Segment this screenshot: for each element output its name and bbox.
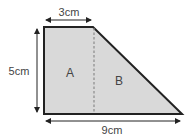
top-dimension-label: 3cm — [59, 6, 80, 18]
region-b-label: B — [115, 74, 123, 88]
trapezoid-shape — [44, 27, 182, 114]
trapezoid-diagram: 3cm 5cm 9cm A B — [0, 0, 190, 140]
bottom-dimension-label: 9cm — [102, 124, 123, 136]
left-dimension-label: 5cm — [9, 65, 30, 77]
region-a-label: A — [66, 66, 74, 80]
